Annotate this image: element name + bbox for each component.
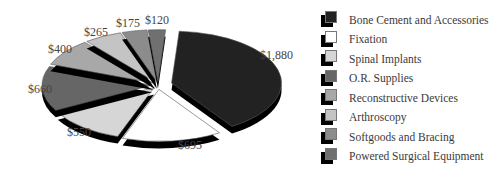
legend-label: Fixation — [349, 33, 387, 45]
legend-label: Reconstructive Devices — [349, 92, 458, 104]
legend-item: Powered Surgical Equipment — [321, 147, 489, 167]
legend-item: Arthroscopy — [321, 108, 489, 128]
legend-label: Powered Surgical Equipment — [349, 150, 484, 162]
legend-swatch — [321, 50, 338, 67]
legend-item: O.R. Supplies — [321, 69, 489, 89]
chart-legend: Bone Cement and AccessoriesFixationSpina… — [321, 10, 489, 166]
value-label-or-supplies: $660 — [28, 82, 52, 97]
legend-item: Softgoods and Bracing — [321, 127, 489, 147]
legend-label: Arthroscopy — [349, 111, 407, 123]
value-label-arthroscopy: $265 — [84, 25, 108, 40]
value-label-softgoods: $175 — [116, 16, 140, 31]
value-label-reconstructive: $400 — [48, 42, 72, 57]
legend-label: O.R. Supplies — [349, 72, 413, 84]
value-label-powered: $120 — [145, 13, 169, 28]
legend-swatch — [321, 148, 338, 165]
legend-swatch — [321, 31, 338, 48]
legend-swatch — [321, 70, 338, 87]
legend-swatch — [321, 128, 338, 145]
legend-item: Spinal Implants — [321, 49, 489, 69]
legend-item: Reconstructive Devices — [321, 88, 489, 108]
value-label-spinal-implants: $550 — [67, 125, 91, 140]
legend-swatch — [321, 109, 338, 126]
legend-label: Softgoods and Bracing — [349, 131, 454, 143]
legend-item: Bone Cement and Accessories — [321, 10, 489, 30]
legend-label: Bone Cement and Accessories — [349, 14, 489, 26]
legend-item: Fixation — [321, 30, 489, 50]
legend-swatch — [321, 89, 338, 106]
value-label-fixation: $695 — [178, 138, 202, 153]
legend-label: Spinal Implants — [349, 53, 422, 65]
value-label-bone-cement: $1,880 — [260, 48, 293, 63]
legend-swatch — [321, 11, 338, 28]
